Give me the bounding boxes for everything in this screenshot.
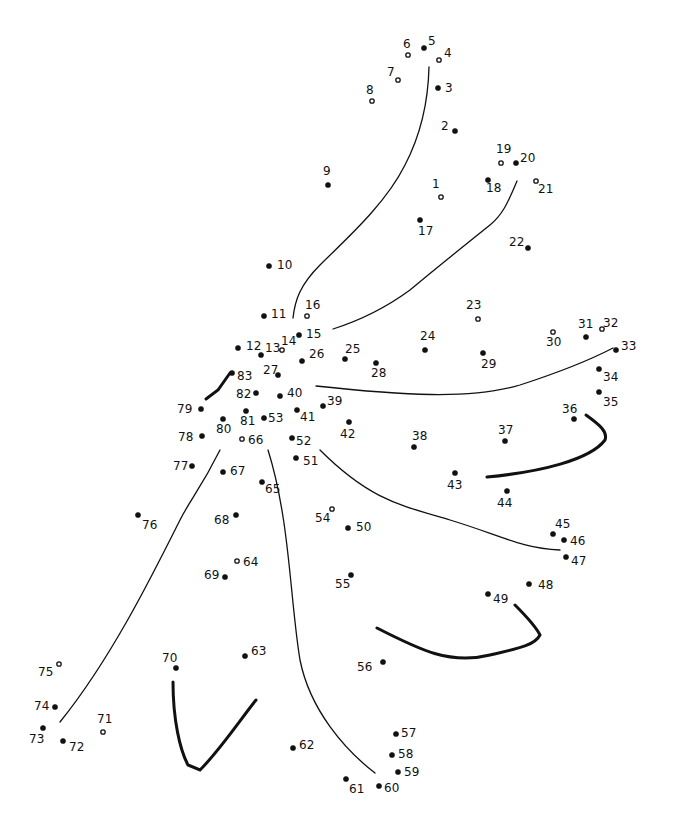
dot-marker[interactable] bbox=[343, 776, 348, 781]
dot-50[interactable]: 50 bbox=[345, 520, 371, 534]
dot-marker[interactable] bbox=[376, 783, 381, 788]
dot-marker[interactable] bbox=[242, 653, 247, 658]
dot-18[interactable]: 18 bbox=[485, 177, 501, 195]
dot-27[interactable]: 27 bbox=[263, 363, 281, 378]
dot-marker[interactable] bbox=[596, 389, 601, 394]
dot-67[interactable]: 67 bbox=[220, 464, 245, 478]
dot-40[interactable]: 40 bbox=[277, 386, 302, 400]
dot-17[interactable]: 17 bbox=[417, 217, 433, 238]
dot-marker[interactable] bbox=[480, 350, 485, 355]
dot-59[interactable]: 59 bbox=[395, 765, 419, 779]
dot-marker[interactable] bbox=[305, 314, 309, 318]
dot-57[interactable]: 57 bbox=[393, 726, 416, 740]
dot-46[interactable]: 46 bbox=[561, 534, 585, 548]
dot-34[interactable]: 34 bbox=[596, 366, 618, 384]
dot-51[interactable]: 51 bbox=[293, 454, 318, 468]
dot-49[interactable]: 49 bbox=[485, 591, 508, 606]
dot-52[interactable]: 52 bbox=[289, 434, 311, 448]
dot-73[interactable]: 73 bbox=[29, 725, 46, 746]
dot-marker[interactable] bbox=[435, 85, 440, 90]
dot-33[interactable]: 33 bbox=[613, 339, 636, 353]
dot-58[interactable]: 58 bbox=[389, 747, 413, 761]
dot-marker[interactable] bbox=[346, 419, 351, 424]
dot-28[interactable]: 28 bbox=[371, 360, 386, 380]
dot-69[interactable]: 69 bbox=[204, 568, 228, 582]
dot-marker[interactable] bbox=[370, 99, 374, 103]
dot-marker[interactable] bbox=[253, 390, 258, 395]
dot-32[interactable]: 32 bbox=[600, 316, 618, 331]
dot-marker[interactable] bbox=[395, 769, 400, 774]
dot-marker[interactable] bbox=[266, 263, 271, 268]
dot-marker[interactable] bbox=[198, 406, 203, 411]
dot-23[interactable]: 23 bbox=[466, 298, 481, 321]
dot-64[interactable]: 64 bbox=[235, 555, 258, 569]
dot-44[interactable]: 44 bbox=[497, 488, 512, 510]
dot-29[interactable]: 29 bbox=[480, 350, 496, 371]
dot-70[interactable]: 70 bbox=[162, 651, 179, 671]
dot-marker[interactable] bbox=[550, 531, 555, 536]
dot-marker[interactable] bbox=[220, 469, 225, 474]
dot-marker[interactable] bbox=[439, 195, 443, 199]
dot-14[interactable]: 14 bbox=[280, 334, 296, 352]
dot-71[interactable]: 71 bbox=[97, 712, 112, 734]
dot-marker[interactable] bbox=[485, 591, 490, 596]
dot-marker[interactable] bbox=[380, 659, 385, 664]
dot-marker[interactable] bbox=[229, 370, 234, 375]
dot-marker[interactable] bbox=[411, 444, 416, 449]
dot-marker[interactable] bbox=[561, 537, 566, 542]
dot-55[interactable]: 55 bbox=[335, 572, 354, 591]
dot-marker[interactable] bbox=[417, 217, 422, 222]
dot-61[interactable]: 61 bbox=[343, 776, 364, 796]
dot-marker[interactable] bbox=[40, 725, 45, 730]
dot-31[interactable]: 31 bbox=[578, 317, 593, 340]
dot-54[interactable]: 54 bbox=[315, 507, 334, 525]
dot-marker[interactable] bbox=[502, 438, 507, 443]
dot-3[interactable]: 3 bbox=[435, 81, 452, 95]
dot-marker[interactable] bbox=[261, 313, 266, 318]
dot-83[interactable]: 83 bbox=[229, 369, 252, 383]
dot-marker[interactable] bbox=[243, 408, 248, 413]
dot-marker[interactable] bbox=[277, 393, 282, 398]
dot-marker[interactable] bbox=[613, 347, 618, 352]
dot-marker[interactable] bbox=[563, 554, 568, 559]
dot-47[interactable]: 47 bbox=[563, 554, 586, 568]
dot-marker[interactable] bbox=[571, 416, 576, 421]
dot-72[interactable]: 72 bbox=[60, 738, 84, 754]
dot-marker[interactable] bbox=[235, 559, 239, 563]
dot-marker[interactable] bbox=[330, 507, 334, 511]
dot-76[interactable]: 76 bbox=[135, 512, 157, 532]
dot-marker[interactable] bbox=[233, 512, 238, 517]
dot-9[interactable]: 9 bbox=[323, 164, 331, 188]
dot-6[interactable]: 6 bbox=[403, 37, 411, 57]
dot-marker[interactable] bbox=[220, 416, 225, 421]
dot-41[interactable]: 41 bbox=[294, 407, 315, 424]
dot-marker[interactable] bbox=[476, 317, 480, 321]
dot-marker[interactable] bbox=[596, 366, 601, 371]
dot-81[interactable]: 81 bbox=[240, 408, 255, 428]
dot-marker[interactable] bbox=[499, 161, 503, 165]
dot-74[interactable]: 74 bbox=[34, 699, 58, 713]
dot-marker[interactable] bbox=[259, 479, 264, 484]
dot-4[interactable]: 4 bbox=[437, 46, 452, 62]
dot-marker[interactable] bbox=[57, 662, 61, 666]
dot-42[interactable]: 42 bbox=[340, 419, 355, 441]
dot-24[interactable]: 24 bbox=[420, 329, 435, 353]
dot-21[interactable]: 21 bbox=[534, 179, 553, 196]
dot-marker[interactable] bbox=[258, 352, 263, 357]
dot-marker[interactable] bbox=[342, 356, 347, 361]
dot-marker[interactable] bbox=[345, 525, 350, 530]
dot-75[interactable]: 75 bbox=[38, 662, 61, 679]
dot-5[interactable]: 5 bbox=[421, 34, 435, 51]
dot-marker[interactable] bbox=[289, 435, 294, 440]
dot-45[interactable]: 45 bbox=[550, 517, 570, 537]
dot-marker[interactable] bbox=[173, 665, 178, 670]
dot-marker[interactable] bbox=[320, 403, 325, 408]
dot-marker[interactable] bbox=[525, 245, 530, 250]
dot-marker[interactable] bbox=[513, 160, 518, 165]
dot-marker[interactable] bbox=[551, 330, 555, 334]
dot-11[interactable]: 11 bbox=[261, 307, 286, 321]
dot-marker[interactable] bbox=[296, 332, 301, 337]
dot-marker[interactable] bbox=[135, 512, 140, 517]
dot-marker[interactable] bbox=[504, 488, 509, 493]
dot-16[interactable]: 16 bbox=[305, 298, 320, 318]
